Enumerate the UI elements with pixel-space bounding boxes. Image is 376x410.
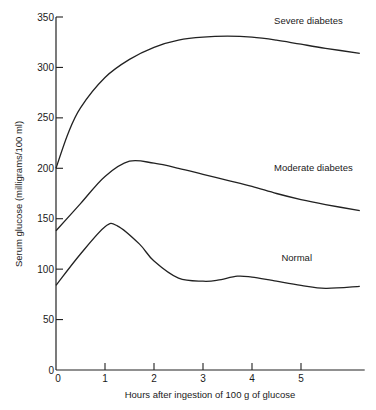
x-tick-label: 0 (55, 373, 61, 384)
x-tick-label: 4 (249, 373, 255, 384)
axes: 050100150200250300350012345Hours after i… (13, 12, 365, 401)
curve-normal (56, 223, 360, 288)
curve-severe-diabetes (56, 36, 360, 168)
y-tick-label: 100 (37, 264, 54, 275)
y-tick-label: 50 (43, 314, 55, 325)
x-tick-label: 2 (151, 373, 157, 384)
y-tick-label: 150 (37, 213, 54, 224)
glucose-tolerance-chart: 050100150200250300350012345Hours after i… (0, 0, 376, 410)
y-tick-label: 200 (37, 163, 54, 174)
x-tick-label: 3 (200, 373, 206, 384)
labels: Severe diabetesModerate diabetesNormal (274, 15, 353, 263)
y-axis-title: Serum glucose (milligrams/100 ml) (13, 121, 24, 267)
y-tick-label: 0 (48, 365, 54, 376)
y-tick-label: 350 (37, 12, 54, 23)
label-normal: Normal (281, 252, 312, 263)
x-tick-label: 5 (298, 373, 304, 384)
y-tick-label: 300 (37, 62, 54, 73)
y-tick-label: 250 (37, 112, 54, 123)
label-moderate-diabetes: Moderate diabetes (274, 162, 353, 173)
x-axis-title: Hours after ingestion of 100 g of glucos… (125, 389, 296, 400)
x-tick-label: 1 (102, 373, 108, 384)
label-severe-diabetes: Severe diabetes (274, 15, 343, 26)
